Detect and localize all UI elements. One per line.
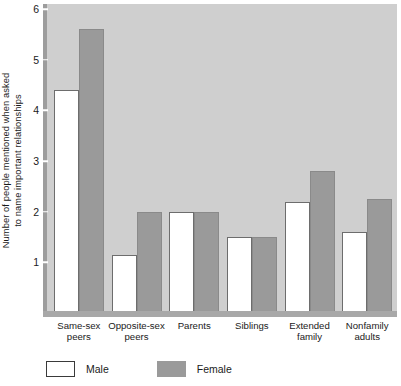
bar-female <box>194 212 219 313</box>
y-axis-tick-label: 5 <box>33 54 39 65</box>
bar-group <box>108 4 166 313</box>
category-label: Same-sexpeers <box>50 320 108 354</box>
category-label: Nonfamilyadults <box>338 320 396 354</box>
bar-groups <box>46 4 397 313</box>
y-axis-tick-labels: 123456 <box>26 0 43 320</box>
category-label-line-1: Parents <box>178 320 211 331</box>
y-axis-tick-mark <box>42 8 48 10</box>
legend-swatch-male <box>46 361 75 377</box>
bar-group <box>338 4 396 313</box>
x-axis-category-labels: Same-sexpeersOpposite-sexpeersParentsSib… <box>46 320 397 354</box>
category-label: Opposite-sexpeers <box>108 320 166 354</box>
bar-chart-figure: Number of people mentioned when asked to… <box>0 0 401 386</box>
category-label: Parents <box>165 320 223 354</box>
category-label-line-1: Extended <box>289 320 330 331</box>
y-axis-tick-mark <box>42 262 48 264</box>
bar-group <box>50 4 108 313</box>
y-axis-tick-mark <box>42 160 48 162</box>
bar-female <box>137 212 162 313</box>
category-label-line-2: adults <box>338 331 396 342</box>
bar-male <box>169 212 194 313</box>
bar-male <box>285 202 310 313</box>
bar-male <box>227 237 252 313</box>
category-label-line-1: Same-sex <box>57 320 100 331</box>
plot-area <box>46 4 397 313</box>
bar-male <box>342 232 367 313</box>
category-label: Extendedfamily <box>281 320 339 354</box>
x-axis-baseline <box>43 311 397 317</box>
legend-label: Female <box>197 364 232 375</box>
category-label-line-1: Siblings <box>235 320 269 331</box>
y-axis-title: Number of people mentioned when asked to… <box>0 0 26 320</box>
y-axis-tick-label: 1 <box>33 257 39 268</box>
bar-group <box>281 4 339 313</box>
bar-group <box>165 4 223 313</box>
y-axis-tick-label: 2 <box>33 206 39 217</box>
y-axis-spine <box>43 4 47 313</box>
legend-label: Male <box>86 364 109 375</box>
category-label-line-2: family <box>281 331 339 342</box>
bar-group <box>223 4 281 313</box>
bar-male <box>54 90 79 313</box>
category-label: Siblings <box>223 320 281 354</box>
category-label-line-2: peers <box>50 331 108 342</box>
bar-female <box>310 171 335 313</box>
bar-female <box>367 199 392 313</box>
legend-item-male[interactable]: Male <box>46 361 109 377</box>
legend: MaleFemale <box>46 358 232 380</box>
y-axis-tick-mark <box>42 211 48 213</box>
category-label-line-1: Opposite-sex <box>108 320 165 331</box>
y-axis-tick-label: 4 <box>33 105 39 116</box>
y-axis-tick-label: 3 <box>33 156 39 167</box>
bar-female <box>252 237 277 313</box>
y-axis-tick-label: 6 <box>33 4 39 15</box>
legend-item-female[interactable]: Female <box>157 361 232 377</box>
y-axis-title-line-2: to name important relationships <box>13 72 25 248</box>
bar-female <box>79 29 104 313</box>
y-axis-tick-mark <box>42 59 48 61</box>
category-label-line-1: Nonfamily <box>346 320 389 331</box>
legend-swatch-female <box>157 361 186 377</box>
bar-male <box>112 255 137 313</box>
y-axis-title-line-1: Number of people mentioned when asked <box>2 72 12 248</box>
category-label-line-2: peers <box>108 331 166 342</box>
y-axis-tick-mark <box>42 110 48 112</box>
